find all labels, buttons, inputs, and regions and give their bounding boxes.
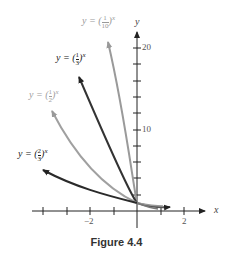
curve-one-tenth — [108, 42, 137, 203]
y-tick-label-10: 10 — [142, 124, 151, 134]
label-two-thirds: y = (23)x — [18, 147, 47, 163]
x-tick-label-2: 2 — [182, 216, 187, 226]
x-tick-label-neg2: −2 — [84, 216, 94, 226]
label-one-third: y = (13)x — [56, 51, 85, 67]
label-one-tenth: y = (110)x — [82, 14, 115, 30]
figure-caption: Figure 4.4 — [0, 236, 233, 248]
exponential-decay-chart — [0, 0, 233, 254]
y-tick-label-20: 20 — [142, 42, 151, 52]
label-one-half: y = (12)x — [29, 88, 58, 104]
x-axis-label: x — [214, 204, 218, 215]
y-axis-label: y — [135, 16, 139, 27]
